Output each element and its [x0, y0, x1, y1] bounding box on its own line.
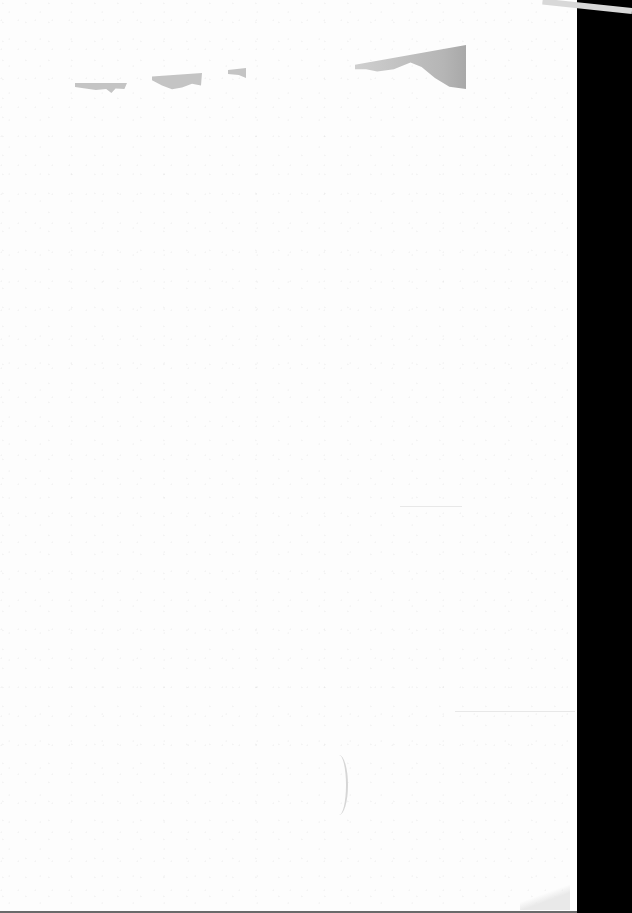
page-corner-fold — [520, 885, 570, 910]
scanned-page — [0, 0, 577, 913]
paper-crease-mark — [330, 755, 348, 815]
paper-texture — [0, 0, 577, 911]
faint-rule — [455, 711, 575, 712]
faint-rule — [400, 506, 462, 507]
